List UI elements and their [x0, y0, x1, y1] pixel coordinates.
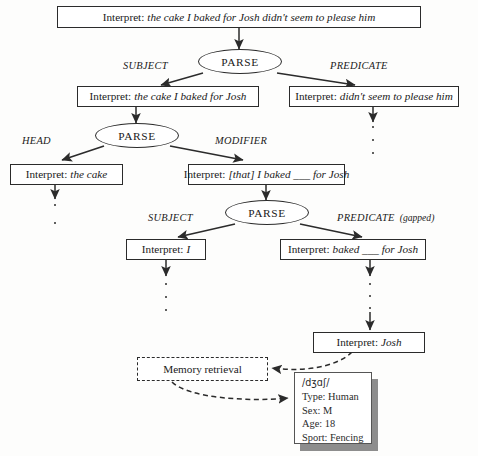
node-subject-l3: Interpret: I — [126, 239, 206, 260]
memory-record-row-age: Age: 18 — [302, 417, 365, 431]
node-head-l2-value: the cake — [67, 168, 107, 180]
node-subject-l1: Interpret: the cake I baked for Josh — [77, 86, 259, 107]
diagram-canvas: Interpret: the cake I baked for Josh did… — [0, 0, 478, 456]
interpret-label: Interpret: — [90, 90, 132, 102]
interpret-label: Interpret: — [184, 168, 226, 180]
edge-label-predicate-3: PREDICATE(gapped) — [337, 212, 434, 223]
node-predicate-l3-value: baked ___ for Josh — [330, 243, 418, 255]
edge-label-subject-3: SUBJECT — [148, 212, 193, 223]
interpret-label: Interpret: — [295, 90, 337, 102]
node-predicate-l1: Interpret: didn't seem to please him — [289, 86, 459, 107]
edge-label-head-2: HEAD — [22, 135, 51, 146]
node-subject-l3-value: I — [183, 243, 190, 255]
parse-node-1-label: PARSE — [221, 56, 258, 68]
memory-record-panel: /dʒɑʃ/ Type: Human Sex: M Age: 18 Sport:… — [294, 372, 372, 444]
node-head-l2: Interpret: the cake — [10, 164, 123, 185]
memory-record-row-sport: Sport: Fencing — [302, 431, 365, 445]
edge-label-subject-1: SUBJECT — [123, 60, 168, 71]
memory-retrieval-label: Memory retrieval — [163, 363, 242, 375]
parse-node-2: PARSE — [95, 123, 179, 148]
edge-label-subject-3-text: SUBJECT — [148, 212, 193, 223]
edge-label-modifier-2-text: MODIFIER — [215, 135, 267, 146]
edge-label-head-2-text: HEAD — [22, 135, 51, 146]
edge-label-predicate-3-text: PREDICATE — [337, 212, 395, 223]
node-modifier-l2-value: [that] I baked ___ for Josh — [225, 168, 349, 180]
interpret-label: Interpret: — [336, 336, 378, 348]
ellipsis-head-l2 — [54, 204, 56, 224]
parse-node-3-label: PARSE — [248, 207, 285, 219]
interpret-label: Interpret: — [103, 11, 145, 23]
memory-record-row-sex: Sex: M — [302, 404, 365, 418]
parse-node-3: PARSE — [225, 200, 309, 225]
edge-label-predicate-1-text: PREDICATE — [330, 60, 388, 71]
edge-label-predicate-1: PREDICATE — [330, 60, 388, 71]
node-josh-value: Josh — [378, 336, 402, 348]
ellipsis-predicate-l3 — [369, 283, 371, 309]
memory-record-ipa: /dʒɑʃ/ — [302, 377, 365, 390]
interpret-label: Interpret: — [142, 243, 184, 255]
ellipsis-predicate-l1 — [372, 126, 374, 154]
interpret-label: Interpret: — [26, 168, 68, 180]
edge-label-predicate-3-note: (gapped) — [395, 212, 435, 223]
node-root-value: the cake I baked for Josh didn't seem to… — [144, 11, 375, 23]
parse-node-2-label: PARSE — [118, 130, 155, 142]
node-root-interpret: Interpret: the cake I baked for Josh did… — [57, 6, 421, 28]
ellipsis-subject-l3 — [165, 283, 167, 311]
memory-record-row-type: Type: Human — [302, 390, 365, 404]
interpret-label: Interpret: — [288, 243, 330, 255]
node-predicate-l3: Interpret: baked ___ for Josh — [280, 239, 426, 260]
node-josh: Interpret: Josh — [313, 332, 425, 353]
node-modifier-l2: Interpret: [that] I baked ___ for Josh — [188, 164, 345, 185]
memory-retrieval-box: Memory retrieval — [137, 357, 268, 381]
edge-label-modifier-2: MODIFIER — [215, 135, 267, 146]
parse-node-1: PARSE — [198, 49, 282, 74]
edge-label-subject-1-text: SUBJECT — [123, 60, 168, 71]
node-subject-l1-value: the cake I baked for Josh — [131, 90, 246, 102]
node-predicate-l1-value: didn't seem to please him — [337, 90, 453, 102]
